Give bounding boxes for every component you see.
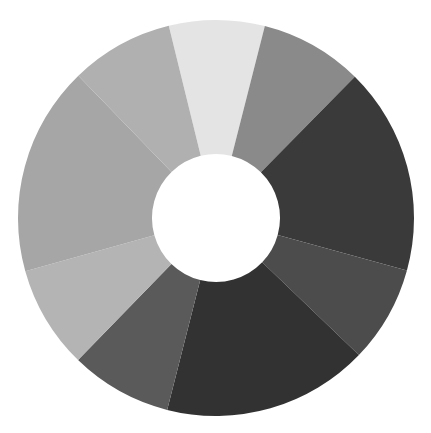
donut-center-label bbox=[152, 154, 280, 282]
